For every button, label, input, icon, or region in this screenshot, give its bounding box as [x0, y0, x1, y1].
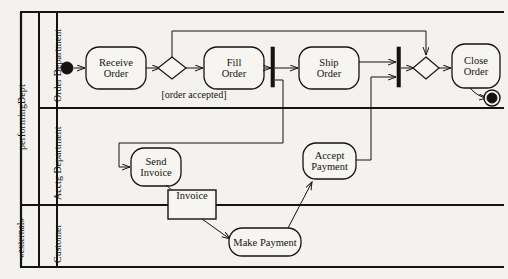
node-merge-1[interactable]	[413, 57, 439, 79]
node-label-close-order-line1: Close	[464, 55, 488, 66]
node-label-make-payment: Make Payment	[229, 228, 301, 256]
edge-invoice-object-to-make-payment	[202, 219, 230, 239]
node-label-ship-order-line2: Order	[317, 68, 342, 79]
node-label-fill-order: Fill Order	[204, 47, 264, 89]
swimlane-label-customer: Customer	[52, 224, 63, 263]
node-label-fill-order-line2: Order	[222, 68, 247, 79]
node-label-send-invoice-line2: Invoice	[140, 167, 172, 178]
node-label-accept-payment-line2: Payment	[311, 161, 348, 172]
node-label-ship-order: Ship Order	[299, 47, 359, 89]
node-label-close-order-line2: Order	[464, 66, 489, 77]
swimlane-label-acctg-department: Acctg Department	[52, 126, 63, 200]
partition-label-external: «external»	[16, 218, 26, 258]
node-label-accept-payment: Accept Payment	[303, 143, 356, 179]
node-fork-bar	[271, 47, 274, 87]
node-label-fill-order-line1: Fill	[227, 57, 242, 68]
final-node	[484, 90, 500, 106]
node-label-send-invoice-line1: Send	[146, 156, 167, 167]
node-label-invoice-object-line1: Invoice	[176, 190, 208, 201]
node-label-ship-order-line1: Ship	[319, 57, 338, 68]
node-label-invoice-object: Invoice	[168, 190, 216, 201]
node-label-receive-order-line1: Receive	[99, 57, 133, 68]
node-join-bar	[397, 47, 400, 87]
node-label-close-order: Close Order	[452, 44, 500, 88]
partition-label-performing-dept: performingDept	[16, 84, 27, 150]
node-label-receive-order-line2: Order	[104, 68, 129, 79]
node-label-receive-order: Receive Order	[86, 47, 146, 89]
node-decision-1[interactable]	[158, 57, 186, 79]
swimlane-label-order-department: Order Department	[52, 29, 63, 102]
activity-diagram-canvas: performingDept «external» Order Departme…	[0, 0, 508, 279]
node-label-accept-payment-line1: Accept	[315, 150, 345, 161]
node-label-send-invoice: Send Invoice	[131, 148, 181, 186]
swimlane-dividers	[21, 108, 504, 205]
node-label-make-payment-line1: Make Payment	[233, 237, 296, 248]
edge-accept-payment-to-join	[356, 77, 396, 160]
